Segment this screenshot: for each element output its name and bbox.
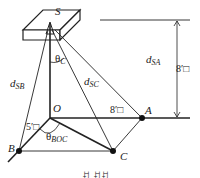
theta-boc-sub: BOC bbox=[51, 135, 67, 144]
d-sb-sub: SB bbox=[16, 82, 25, 91]
point-b-dot bbox=[16, 148, 22, 154]
height-dimension-label: 8′□ bbox=[176, 64, 189, 74]
figure-caption: ꀀ ꀀꀀ bbox=[82, 172, 109, 178]
ob-dimension-label: 5′□ bbox=[26, 122, 39, 132]
theta-c-label: θC bbox=[55, 53, 66, 66]
d-sc-label: dSC bbox=[84, 76, 99, 89]
point-c-label: C bbox=[120, 151, 127, 162]
diagram-lines bbox=[0, 0, 200, 178]
point-o-label: O bbox=[53, 103, 61, 114]
d-sb-label: dSB bbox=[10, 78, 24, 91]
theta-boc-label: θBOC bbox=[46, 131, 67, 144]
point-c-dot bbox=[110, 148, 116, 154]
diagram-canvas: S dSA dSC dSB θC θBOC O A B C 8′□ 8′□ 5′… bbox=[0, 0, 200, 178]
d-sa-sub: SA bbox=[152, 58, 161, 67]
point-b-label: B bbox=[8, 143, 15, 154]
theta-c-sub: C bbox=[60, 57, 65, 66]
source-label: S bbox=[55, 6, 61, 17]
oa-dimension-label: 8′□ bbox=[110, 105, 123, 115]
point-a-label: A bbox=[145, 105, 152, 116]
d-sc-sub: SC bbox=[90, 80, 99, 89]
d-sa-label: dSA bbox=[146, 54, 160, 67]
